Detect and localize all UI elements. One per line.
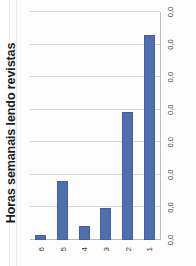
category-axis-line	[160, 12, 161, 240]
value-tick-label: 0,0	[166, 202, 175, 212]
value-tick-label: 0,0	[166, 105, 175, 115]
bar-row	[117, 12, 139, 240]
chart-title: Horas semanais lendo revistas	[4, 0, 18, 266]
bar[interactable]	[100, 208, 111, 240]
bar[interactable]	[57, 181, 68, 240]
value-tick-label: 0,0	[166, 7, 175, 17]
category-tick-label: 3	[101, 247, 110, 251]
value-tick-label: 0,0	[166, 235, 175, 245]
category-tick-label: 1	[145, 247, 154, 251]
category-tick-label: 2	[123, 247, 132, 251]
value-tick-label: 0,0	[166, 72, 175, 82]
category-axis-ticks: 123456	[30, 242, 160, 266]
value-tick-label: 0,0	[166, 137, 175, 147]
bar-row	[138, 12, 160, 240]
value-axis-ticks: 0,00,00,00,00,00,00,00,0	[166, 12, 182, 240]
category-tick-label: 4	[80, 247, 89, 251]
plot-area	[30, 12, 160, 240]
bar[interactable]	[144, 35, 155, 240]
bar-row	[73, 12, 95, 240]
value-tick-label: 0,0	[166, 39, 175, 49]
bar-chart: Horas semanais lendo revistas 0,00,00,00…	[0, 0, 196, 266]
category-tick-label: 6	[36, 247, 45, 251]
bar-row	[95, 12, 117, 240]
value-tick-label: 0,0	[166, 170, 175, 180]
bar-row	[30, 12, 52, 240]
bar[interactable]	[79, 226, 90, 240]
scanned-page: Painel Horas semanais lendo revistas 0,0…	[0, 0, 196, 266]
bar[interactable]	[122, 112, 133, 240]
category-tick-label: 5	[58, 247, 67, 251]
bar[interactable]	[35, 235, 46, 240]
bar-row	[52, 12, 74, 240]
